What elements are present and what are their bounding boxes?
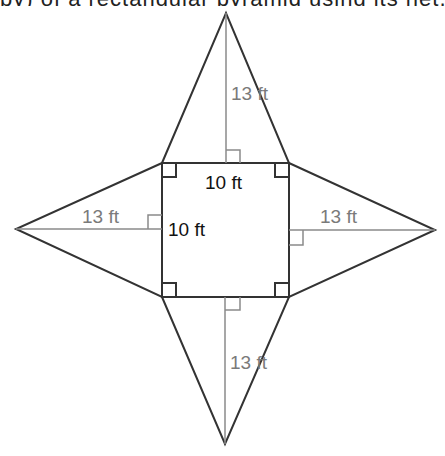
corner-marker-br xyxy=(275,283,289,297)
corner-marker-tr xyxy=(275,163,289,177)
base-top-label: 10 ft xyxy=(205,172,243,193)
left-slant-label: 13 ft xyxy=(82,206,120,227)
corner-marker-tl xyxy=(162,163,176,177)
top-right-angle-marker xyxy=(226,150,240,163)
pyramid-net-diagram: 13 ft 13 ft 13 ft 13 ft 10 ft 10 ft xyxy=(0,0,445,456)
top-slant-label: 13 ft xyxy=(231,83,269,104)
bottom-slant-label: 13 ft xyxy=(230,352,268,373)
right-right-angle-marker xyxy=(289,230,303,245)
left-right-angle-marker xyxy=(148,215,162,229)
bottom-right-angle-marker xyxy=(225,297,240,310)
left-triangle xyxy=(16,163,162,297)
base-side-label: 10 ft xyxy=(168,219,206,240)
right-slant-label: 13 ft xyxy=(320,206,358,227)
corner-marker-bl xyxy=(162,283,176,297)
